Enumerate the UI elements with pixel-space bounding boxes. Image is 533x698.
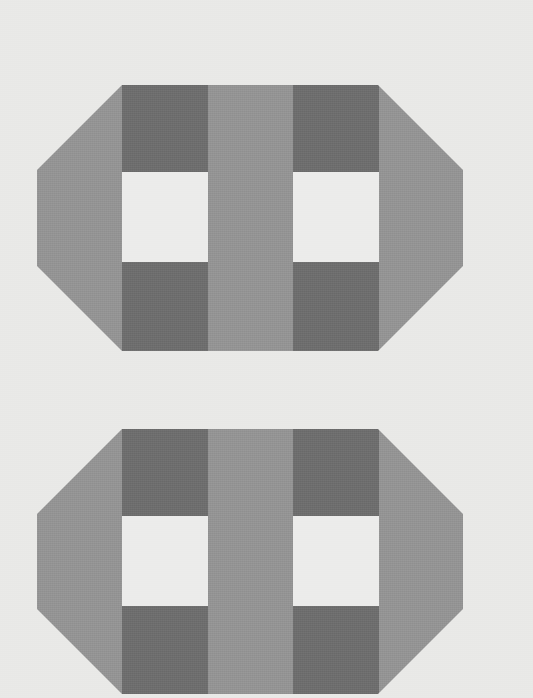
check-cell-dark xyxy=(122,429,208,516)
check-cell-dark xyxy=(293,262,379,351)
check-cell-mid xyxy=(379,172,463,262)
check-cell-dark xyxy=(122,606,208,695)
check-cell-light xyxy=(122,172,208,262)
check-cell-light xyxy=(293,516,379,606)
check-cell-mid xyxy=(208,606,293,695)
check-cell-mid xyxy=(37,516,122,606)
check-cell-mid xyxy=(208,172,293,262)
check-cell-mid xyxy=(208,429,293,516)
check-cell-mid xyxy=(37,172,122,262)
gingham-octagons-artwork xyxy=(0,0,533,698)
check-cell-mid xyxy=(379,516,463,606)
octagon-bottom xyxy=(37,429,463,695)
check-cell-light xyxy=(122,516,208,606)
octagon-top xyxy=(37,85,463,351)
check-cell-dark xyxy=(122,85,208,172)
check-cell-dark xyxy=(293,85,379,172)
check-cell-mid xyxy=(208,85,293,172)
check-cell-dark xyxy=(122,262,208,351)
image-canvas xyxy=(0,0,533,698)
check-cell-mid xyxy=(208,516,293,606)
check-cell-dark xyxy=(293,429,379,516)
check-cell-dark xyxy=(293,606,379,695)
check-cell-mid xyxy=(208,262,293,351)
check-cell-light xyxy=(293,172,379,262)
